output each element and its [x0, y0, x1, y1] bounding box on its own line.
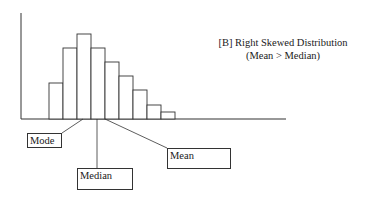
title-line-2: (Mean > Median): [218, 49, 348, 62]
histogram-bar: [49, 83, 63, 119]
mean-leader-line: [105, 119, 167, 148]
histogram-bars: [49, 34, 175, 119]
histogram-bar: [161, 112, 175, 119]
histogram-bar: [91, 48, 105, 119]
histogram-bar: [119, 76, 133, 119]
histogram-bar: [147, 105, 161, 119]
histogram-bar: [133, 90, 147, 119]
title-line-1: [B] Right Skewed Distribution: [218, 36, 348, 49]
histogram-bar: [77, 34, 91, 119]
histogram-bar: [105, 62, 119, 119]
mode-leader-line: [62, 119, 83, 133]
histogram-diagram: [0, 0, 367, 206]
median-label: Median: [77, 168, 133, 190]
mode-label: Mode: [27, 133, 62, 148]
histogram-bar: [63, 48, 77, 119]
diagram-title: [B] Right Skewed Distribution (Mean > Me…: [218, 36, 348, 62]
mean-label: Mean: [167, 148, 231, 169]
